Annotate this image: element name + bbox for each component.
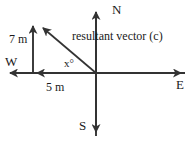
angle-label: x° xyxy=(64,58,74,69)
measurement-label-horizontal-leg: 5 m xyxy=(46,81,64,93)
compass-label-east: E xyxy=(176,78,184,91)
measurement-label-vertical-leg: 7 m xyxy=(9,33,27,45)
resultant-vector-caption: resultant vector (c) xyxy=(72,30,163,42)
vector-diagram: N S W E 7 m 5 m x° resultant vector (c) xyxy=(0,0,191,144)
compass-label-south: S xyxy=(79,119,86,132)
compass-label-north: N xyxy=(112,3,121,16)
compass-label-west: W xyxy=(5,55,17,68)
vector-diagram-canvas xyxy=(0,0,191,144)
